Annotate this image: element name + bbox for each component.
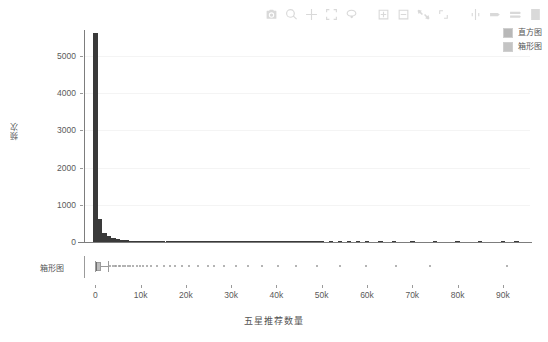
y-axis-title: 频次 bbox=[10, 122, 24, 140]
y-tick-label: 5000 bbox=[44, 51, 76, 61]
y-tick-mark bbox=[80, 130, 83, 131]
x-tick-label: 30k bbox=[224, 290, 238, 300]
boxplot-outlier[interactable] bbox=[150, 265, 152, 267]
boxplot-outlier[interactable] bbox=[197, 265, 199, 267]
boxplot-outlier[interactable] bbox=[506, 265, 508, 267]
y-tick-mark bbox=[80, 56, 83, 57]
boxplot-outlier[interactable] bbox=[115, 265, 117, 267]
x-tick-mark bbox=[186, 285, 187, 288]
plotly-logo-icon[interactable] bbox=[529, 8, 542, 21]
y-gridline bbox=[84, 130, 530, 131]
spike-lines-icon[interactable] bbox=[469, 8, 482, 21]
zoom-out-icon[interactable] bbox=[397, 8, 410, 21]
boxplot-plot-area[interactable] bbox=[84, 254, 530, 280]
x-tick-mark bbox=[322, 285, 323, 288]
zoom-in-icon[interactable] bbox=[377, 8, 390, 21]
boxplot-outlier[interactable] bbox=[247, 265, 249, 267]
boxplot-outlier[interactable] bbox=[213, 265, 215, 267]
x-tick-label: 60k bbox=[360, 290, 374, 300]
x-tick-mark bbox=[367, 285, 368, 288]
camera-icon[interactable] bbox=[265, 8, 278, 21]
boxplot-axis-line bbox=[84, 256, 85, 278]
lasso-select-icon[interactable] bbox=[345, 8, 358, 21]
x-tick-label: 20k bbox=[179, 290, 193, 300]
pan-icon[interactable] bbox=[305, 8, 318, 21]
x-tick-mark bbox=[458, 285, 459, 288]
boxplot-outlier[interactable] bbox=[156, 265, 158, 267]
histogram-bar[interactable] bbox=[93, 33, 98, 242]
hover-x-unified-icon[interactable] bbox=[509, 8, 522, 21]
boxplot-outlier[interactable] bbox=[295, 265, 297, 267]
autoscale-icon[interactable] bbox=[417, 8, 430, 21]
y-tick-mark bbox=[80, 168, 83, 169]
x-tick-label: 0 bbox=[93, 290, 98, 300]
boxplot-outlier[interactable] bbox=[139, 265, 141, 267]
y-axis-line bbox=[84, 30, 85, 242]
y-tick-label: 1000 bbox=[44, 200, 76, 210]
boxplot-outlier[interactable] bbox=[174, 265, 176, 267]
boxplot-outlier[interactable] bbox=[316, 265, 318, 267]
boxplot-outlier[interactable] bbox=[261, 265, 263, 267]
y-tick-mark bbox=[80, 93, 83, 94]
x-axis-title: 五星推荐数量 bbox=[0, 314, 548, 327]
y-tick-label: 4000 bbox=[44, 88, 76, 98]
zoom-icon[interactable] bbox=[285, 8, 298, 21]
boxplot-outlier[interactable] bbox=[207, 265, 209, 267]
modebar-separator-2 bbox=[457, 14, 462, 15]
box-select-icon[interactable] bbox=[325, 8, 338, 21]
boxplot-outlier[interactable] bbox=[169, 265, 171, 267]
y-gridline bbox=[84, 93, 530, 94]
boxplot-outlier[interactable] bbox=[277, 265, 279, 267]
boxplot-outlier[interactable] bbox=[136, 265, 138, 267]
x-tick-label: 80k bbox=[451, 290, 465, 300]
boxplot-outlier[interactable] bbox=[129, 265, 131, 267]
y-gridline bbox=[84, 205, 530, 206]
boxplot-outlier[interactable] bbox=[188, 265, 190, 267]
x-tick-mark bbox=[276, 285, 277, 288]
boxplot-outlier[interactable] bbox=[181, 265, 183, 267]
x-tick-mark bbox=[412, 285, 413, 288]
x-tick-mark bbox=[503, 285, 504, 288]
boxplot-outlier[interactable] bbox=[365, 265, 367, 267]
boxplot-row-label: 箱形图 bbox=[40, 262, 64, 273]
boxplot-outlier[interactable] bbox=[235, 265, 237, 267]
y-tick-label: 0 bbox=[44, 237, 76, 247]
x-tick-label: 10k bbox=[134, 290, 148, 300]
x-tick-label: 50k bbox=[315, 290, 329, 300]
modebar-separator bbox=[365, 14, 370, 15]
x-tick-mark bbox=[141, 285, 142, 288]
boxplot-outlier[interactable] bbox=[339, 265, 341, 267]
y-tick-label: 2000 bbox=[44, 163, 76, 173]
y-gridline bbox=[84, 56, 530, 57]
x-axis-line bbox=[78, 242, 532, 243]
x-tick-label: 70k bbox=[405, 290, 419, 300]
boxplot-outlier[interactable] bbox=[124, 265, 126, 267]
boxplot-outlier[interactable] bbox=[429, 265, 431, 267]
boxplot-outlier[interactable] bbox=[395, 265, 397, 267]
x-tick-mark bbox=[95, 285, 96, 288]
x-tick-label: 90k bbox=[496, 290, 510, 300]
boxplot-outlier[interactable] bbox=[163, 265, 165, 267]
x-tick-label: 40k bbox=[270, 290, 284, 300]
boxplot-median[interactable] bbox=[96, 262, 97, 271]
boxplot-outlier[interactable] bbox=[132, 265, 134, 267]
plotly-modebar[interactable] bbox=[265, 8, 542, 21]
reset-axes-icon[interactable] bbox=[437, 8, 450, 21]
boxplot-outlier[interactable] bbox=[146, 265, 148, 267]
y-tick-label: 3000 bbox=[44, 125, 76, 135]
x-tick-mark bbox=[231, 285, 232, 288]
histogram-plot-area[interactable] bbox=[84, 30, 530, 242]
plotly-chart: 直方图 箱形图 频次 五星推荐数量 箱形图 010002000300040005… bbox=[0, 0, 548, 342]
hover-compare-icon[interactable] bbox=[489, 8, 502, 21]
y-tick-mark bbox=[80, 205, 83, 206]
boxplot-outlier[interactable] bbox=[142, 265, 144, 267]
y-gridline bbox=[84, 168, 530, 169]
boxplot-outlier[interactable] bbox=[223, 265, 225, 267]
